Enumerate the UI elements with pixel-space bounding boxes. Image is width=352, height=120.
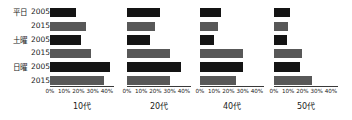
bar-日曜-2005 xyxy=(274,62,300,71)
plot-area xyxy=(274,5,338,87)
row-label: 土曜2005 xyxy=(0,32,48,46)
row-label: 平日2005 xyxy=(0,5,48,19)
bar-平日-2015 xyxy=(50,22,86,31)
panel-title: 10代 xyxy=(50,100,114,111)
year-label: 2015 xyxy=(31,21,48,30)
bar-日曜-2015 xyxy=(274,76,312,85)
chart-panel: 0%10%20%30%40%50代 xyxy=(274,5,338,115)
panel-title: 20代 xyxy=(127,100,191,111)
row-label-group: 平日2005平日2015 xyxy=(0,5,48,32)
year-label: 2005 xyxy=(31,7,48,16)
row-label: 日曜2005 xyxy=(0,60,48,74)
x-tick-label: 20% xyxy=(222,88,234,94)
x-tick-label: 30% xyxy=(236,88,248,94)
row-label-column: 平日2005平日2015土曜2005土曜2015日曜2005日曜2015 xyxy=(0,5,48,87)
category-label: 土曜 xyxy=(13,34,27,45)
bar-平日-2005 xyxy=(127,8,160,17)
small-multiples-bar-chart-figure: 平日2005平日2015土曜2005土曜2015日曜2005日曜2015 0%1… xyxy=(0,0,352,120)
panel-title: 50代 xyxy=(274,100,338,111)
x-tick-label: 40% xyxy=(251,88,263,94)
x-tick-label: 20% xyxy=(72,88,84,94)
chart-panel: 0%10%20%30%40%10代 xyxy=(50,5,114,115)
row-label: 平日2015 xyxy=(0,19,48,33)
row-label-group: 日曜2005日曜2015 xyxy=(0,60,48,87)
bar-日曜-2005 xyxy=(200,62,243,71)
x-tick-label: 30% xyxy=(163,88,175,94)
bar-土曜-2015 xyxy=(127,49,170,58)
x-tick-label: 0% xyxy=(196,88,205,94)
x-tick-label: 10% xyxy=(135,88,147,94)
bar-日曜-2005 xyxy=(127,62,181,71)
bar-土曜-2005 xyxy=(50,35,81,44)
bar-土曜-2005 xyxy=(127,35,150,44)
year-label: 2015 xyxy=(31,76,48,85)
x-tick-label: 30% xyxy=(310,88,322,94)
x-tick-label: 0% xyxy=(46,88,55,94)
bar-土曜-2005 xyxy=(200,35,214,44)
x-tick-label: 40% xyxy=(325,88,337,94)
category-label: 日曜 xyxy=(13,61,27,72)
plot-area xyxy=(200,5,264,87)
year-label: 2015 xyxy=(31,48,48,57)
year-label: 2005 xyxy=(31,35,48,44)
x-tick-label: 10% xyxy=(58,88,70,94)
bar-土曜-2015 xyxy=(200,49,243,58)
x-tick-label: 10% xyxy=(282,88,294,94)
bar-土曜-2015 xyxy=(274,49,302,58)
chart-panel: 0%10%20%30%40%20代 xyxy=(127,5,191,115)
x-axis-ticks: 0%10%20%30%40% xyxy=(274,88,338,98)
bar-平日-2015 xyxy=(274,22,288,31)
x-axis-ticks: 0%10%20%30%40% xyxy=(50,88,114,98)
x-tick-label: 20% xyxy=(149,88,161,94)
bar-平日-2005 xyxy=(274,8,290,17)
bar-土曜-2005 xyxy=(274,35,287,44)
bar-日曜-2015 xyxy=(50,76,104,85)
bar-平日-2015 xyxy=(127,22,155,31)
row-label: 土曜2015 xyxy=(0,46,48,60)
year-label: 2005 xyxy=(31,62,48,71)
row-label-group: 土曜2005土曜2015 xyxy=(0,32,48,59)
panel-title: 40代 xyxy=(200,100,264,111)
row-label: 日曜2015 xyxy=(0,73,48,87)
x-axis-ticks: 0%10%20%30%40% xyxy=(127,88,191,98)
x-tick-label: 0% xyxy=(123,88,132,94)
bar-日曜-2015 xyxy=(200,76,236,85)
category-label: 平日 xyxy=(13,6,27,17)
chart-panel: 0%10%20%30%40%40代 xyxy=(200,5,264,115)
x-tick-label: 40% xyxy=(101,88,113,94)
x-tick-label: 0% xyxy=(270,88,279,94)
bar-平日-2005 xyxy=(50,8,76,17)
plot-area xyxy=(50,5,114,87)
bar-土曜-2015 xyxy=(50,49,91,58)
x-axis-ticks: 0%10%20%30%40% xyxy=(200,88,264,98)
bar-日曜-2015 xyxy=(127,76,170,85)
x-tick-label: 20% xyxy=(296,88,308,94)
bar-平日-2005 xyxy=(200,8,221,17)
x-tick-label: 40% xyxy=(178,88,190,94)
bar-平日-2015 xyxy=(200,22,218,31)
plot-area xyxy=(127,5,191,87)
x-tick-label: 30% xyxy=(86,88,98,94)
bar-日曜-2005 xyxy=(50,62,110,71)
x-tick-label: 10% xyxy=(208,88,220,94)
